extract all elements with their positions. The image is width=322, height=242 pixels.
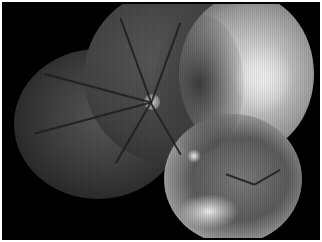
bright-lesion-region: [234, 44, 294, 114]
fundus-montage: [4, 4, 318, 238]
bright-spot: [187, 149, 201, 163]
bright-lesion-region: [179, 194, 239, 229]
fundus-montage-frame: [0, 0, 322, 242]
